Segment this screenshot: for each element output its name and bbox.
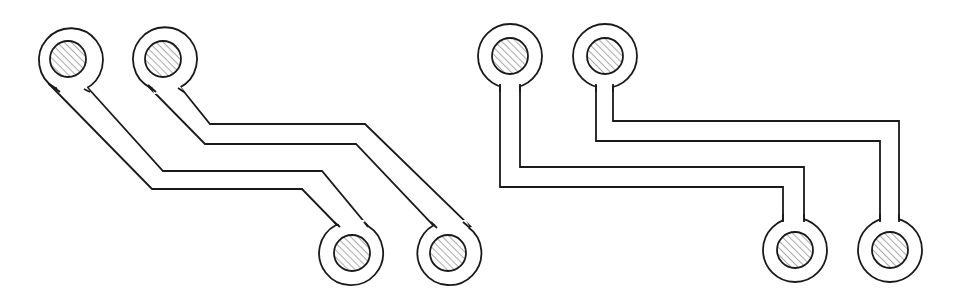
trace-diagonal-1 — [50, 85, 366, 226]
drill-hole-icon — [587, 38, 623, 74]
pad-top-right-1 — [478, 24, 542, 92]
trace-orthogonal-2 — [596, 86, 899, 222]
drill-hole-icon — [430, 235, 466, 271]
trace-outline — [50, 85, 366, 226]
right-figure — [478, 24, 922, 282]
pad-top-left-1 — [39, 28, 103, 89]
pad-bottom-right-1 — [763, 214, 827, 282]
drill-hole-icon — [50, 41, 86, 77]
trace-neck-fill — [56, 86, 470, 230]
pad-bottom-left-2 — [417, 225, 481, 285]
trace-outline — [596, 86, 899, 222]
trace-outline — [146, 84, 470, 226]
trace-outline — [500, 86, 804, 222]
trace-diagonal-2 — [146, 84, 470, 226]
pad-bottom-right-2 — [858, 214, 922, 282]
drill-hole-icon — [145, 41, 181, 77]
drill-hole-icon — [777, 232, 813, 268]
left-figure — [39, 27, 481, 285]
drill-hole-icon — [334, 235, 370, 271]
trace-edge-lines — [52, 85, 470, 228]
pcb-trace-diagram — [0, 0, 954, 303]
drill-hole-icon — [872, 232, 908, 268]
pad-top-right-2 — [573, 24, 637, 92]
pad-bottom-left-1 — [319, 224, 383, 285]
pad-top-left-2 — [133, 27, 197, 88]
drill-hole-icon — [492, 38, 528, 74]
trace-orthogonal-1 — [500, 86, 804, 222]
